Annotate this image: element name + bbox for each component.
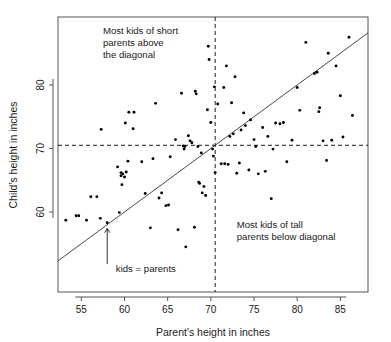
data-point [313,72,316,75]
x-tick-label-75: 75 [248,304,260,315]
data-point [264,170,267,173]
data-point [220,162,223,165]
short-parents-note-line-1: Most kids of short [103,25,179,36]
data-point [169,155,172,158]
data-point [253,138,256,141]
data-point [330,139,333,142]
x-tick-label-55: 55 [76,304,88,315]
data-point [257,172,260,175]
x-tick-label-80: 80 [292,304,304,315]
tall-parents-note-line-2: parents below diagonal [237,231,336,242]
data-point [206,108,209,111]
data-point [127,111,130,114]
data-point [184,245,187,248]
annotations-layer: Most kids of shortparents abovethe diago… [103,25,336,274]
data-point [64,219,67,222]
data-point [174,138,177,141]
y-tick-label-80: 80 [35,79,46,91]
data-point [222,86,225,89]
identity-reference-line [58,33,368,261]
data-point [200,151,203,154]
data-point [214,171,217,174]
short-parents-note: Most kids of shortparents abovethe diago… [103,25,179,60]
data-point [89,195,92,198]
data-point [132,127,135,130]
data-point [351,114,354,117]
data-point [120,183,123,186]
data-point [180,92,183,95]
data-point [212,155,215,158]
data-point [223,162,226,165]
data-point [213,85,216,88]
data-point [125,171,128,174]
data-point [208,58,211,61]
data-point [177,228,180,231]
y-axis: 607080 [35,79,53,218]
x-tick-label-70: 70 [205,304,217,315]
data-point [190,141,193,144]
data-point [348,36,351,39]
data-point [285,160,288,163]
data-point [196,145,199,148]
data-point [140,160,143,163]
data-point [209,121,212,124]
x-tick-label-65: 65 [162,304,174,315]
identity-line-note-line-1: kids = parents [116,263,176,274]
y-axis-title: Child's height in inches [7,101,19,208]
identity-line-note: kids = parents [116,263,176,274]
data-point [106,221,109,224]
data-point [116,165,119,168]
regression-scatter-figure: 55606570758085 607080 Parent's height in… [0,0,391,342]
data-point [298,109,301,112]
data-point [77,214,80,217]
data-point [118,211,121,214]
data-points-layer [64,36,354,248]
data-point [244,124,247,127]
data-point [164,204,167,207]
data-point [235,172,238,175]
data-point [124,122,127,125]
data-point [228,135,231,138]
data-point [261,126,264,129]
data-point [144,192,147,195]
data-point [238,162,241,165]
data-point [194,90,197,93]
data-point [85,219,88,222]
data-point [266,135,269,138]
data-point [204,194,207,197]
data-point [123,176,126,179]
data-point [133,111,136,114]
data-point [207,45,210,48]
data-point [99,217,102,220]
data-point [242,111,245,114]
data-point [335,64,338,67]
x-tick-label-85: 85 [335,304,347,315]
x-axis: 55606570758085 [75,297,346,315]
data-point [225,64,228,67]
data-point [282,121,285,124]
data-point [296,86,299,89]
data-point [240,129,243,132]
data-point [227,163,230,166]
data-point [126,160,129,163]
data-point [304,41,307,44]
data-point [230,101,233,104]
data-point [322,139,325,142]
y-tick-label-70: 70 [35,142,46,154]
data-point [201,191,204,194]
data-point [291,139,294,142]
data-point [95,195,98,198]
tall-parents-note-line-1: Most kids of tall [237,219,303,230]
data-point [100,128,103,131]
data-point [232,132,235,135]
short-parents-note-line-2: parents above [103,37,164,48]
data-point [183,148,186,151]
identity-line [58,33,368,261]
data-point [195,92,198,95]
data-point [152,157,155,160]
data-point [193,226,196,229]
data-point [149,226,152,229]
data-point [247,169,250,172]
data-point [167,204,170,207]
scatter-plot-canvas: 55606570758085 607080 Parent's height in… [0,0,391,342]
